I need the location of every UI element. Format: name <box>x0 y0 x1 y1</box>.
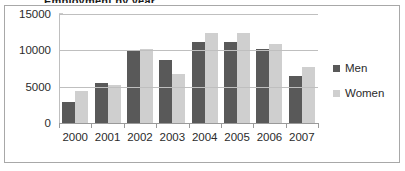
bar-men-2004[interactable] <box>192 42 205 123</box>
gridline <box>59 50 318 51</box>
bar-men-2003[interactable] <box>159 60 172 123</box>
bar-groups <box>59 14 318 123</box>
x-axis-label-2003: 2003 <box>156 131 188 149</box>
x-axis-label-2000: 2000 <box>59 131 91 149</box>
x-axis-label-2001: 2001 <box>91 131 123 149</box>
y-axis-tick-label: 0 <box>45 117 51 129</box>
x-axis-tick <box>124 123 125 128</box>
bar-women-2000[interactable] <box>75 91 88 123</box>
gridline <box>59 14 318 15</box>
x-axis-label-2002: 2002 <box>124 131 156 149</box>
x-axis-tick <box>286 123 287 128</box>
bar-group-2004 <box>189 14 221 123</box>
bar-group-2003 <box>156 14 188 123</box>
x-axis-ticks <box>59 123 318 128</box>
legend-label-men: Men <box>345 62 367 74</box>
bar-group-2006 <box>253 14 285 123</box>
bar-women-2006[interactable] <box>269 44 282 123</box>
legend-label-women: Women <box>345 87 384 99</box>
x-axis-tick <box>318 123 319 128</box>
x-axis-labels: 20002001200220032004200520062007 <box>59 131 318 149</box>
bar-group-2000 <box>59 14 91 123</box>
bar-men-2007[interactable] <box>289 76 302 123</box>
legend-item-men[interactable]: Men <box>333 62 395 74</box>
bar-men-2000[interactable] <box>62 102 75 123</box>
bar-women-2003[interactable] <box>172 74 185 123</box>
x-axis-label-2005: 2005 <box>221 131 253 149</box>
bar-women-2004[interactable] <box>205 33 218 123</box>
x-axis-tick <box>189 123 190 128</box>
bar-men-2005[interactable] <box>224 42 237 123</box>
bar-group-2005 <box>221 14 253 123</box>
bar-group-2001 <box>91 14 123 123</box>
x-axis-tick <box>253 123 254 128</box>
gridline <box>59 87 318 88</box>
legend-swatch-men-icon <box>333 65 340 72</box>
x-axis-tick <box>156 123 157 128</box>
bar-women-2005[interactable] <box>237 33 250 123</box>
y-axis-tick-label: 5000 <box>25 81 51 93</box>
bar-women-2001[interactable] <box>108 85 121 124</box>
y-axis-labels: 050001000015000 <box>4 14 56 123</box>
bar-group-2002 <box>124 14 156 123</box>
bar-men-2001[interactable] <box>95 83 108 123</box>
plot-area <box>59 14 318 123</box>
y-axis-tick-label: 10000 <box>19 44 51 56</box>
x-axis-label-2007: 2007 <box>286 131 318 149</box>
y-axis-tick-label: 15000 <box>19 8 51 20</box>
x-axis-label-2004: 2004 <box>189 131 221 149</box>
chart-legend: MenWomen <box>333 62 395 112</box>
x-axis-tick <box>221 123 222 128</box>
bar-women-2007[interactable] <box>302 67 315 123</box>
bar-group-2007 <box>286 14 318 123</box>
x-axis-label-2006: 2006 <box>253 131 285 149</box>
legend-swatch-women-icon <box>333 90 340 97</box>
legend-item-women[interactable]: Women <box>333 87 395 99</box>
x-axis-tick <box>59 123 60 128</box>
truncated-chart-title: Employment by year <box>44 0 168 3</box>
bar-chart-figure: Employment by year 050001000015000 20002… <box>0 0 405 171</box>
x-axis-tick <box>91 123 92 128</box>
